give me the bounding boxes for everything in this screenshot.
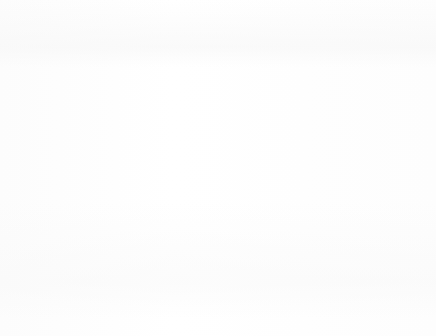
x-axis-label: 2000 A.D. [349, 285, 395, 296]
x-axis-tick [26, 276, 27, 285]
x-axis-tick [101, 276, 102, 285]
x-axis-tick [139, 276, 140, 285]
x-axis-label-rotated: 1000 BC [171, 288, 182, 326]
population-growth-chart-screenshot: Population Growth 5000 BC4000 BC3000 BC2… [0, 0, 436, 336]
y-axis-label: 500 Mill. [382, 235, 418, 246]
y-axis-label: 4 Billion [382, 100, 416, 111]
x-axis-baseline [18, 270, 378, 278]
y-axis-label: 1 Billion [382, 216, 416, 227]
y-axis-line [377, 12, 378, 276]
year-zero-cross-icon: ✝ [211, 287, 224, 302]
population-area-path [18, 14, 377, 272]
plot-area [18, 10, 378, 274]
x-axis-tick [290, 276, 291, 285]
x-axis-tick [62, 276, 63, 285]
x-axis-label-rotated: 4000 BC [55, 288, 66, 326]
x-axis-label-rotated: 5000 BC [19, 288, 30, 326]
x-axis-tick [377, 276, 378, 285]
x-axis-label: 1000 A.D. [262, 285, 308, 296]
population-curve [18, 10, 378, 274]
y-axis-label: 3 Billion [382, 139, 416, 150]
x-axis-label-rotated: 3000 BC [94, 288, 105, 326]
x-axis-label-rotated: 2000 BC [132, 288, 143, 326]
x-axis-tick [216, 276, 217, 285]
y-axis-label: 5 Billion [382, 62, 416, 73]
y-axis-label: 2 Billion [382, 177, 416, 188]
y-axis-label: 6 Billion [382, 24, 416, 35]
x-axis-tick [178, 276, 179, 285]
